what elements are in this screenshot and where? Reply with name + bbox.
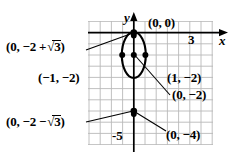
point-label-upper-vertex: (0, −2 +√3) (6, 40, 65, 53)
ellipse-graph-figure: y x 3 -5 (0, 0) (0, −2 +√3) (0, −2 −√3) … (0, 0, 236, 156)
upper-vertex-prefix: (0, −2 + (6, 39, 46, 54)
point-left-covertex (119, 52, 125, 58)
lower-vertex-prefix: (0, −2 − (6, 114, 46, 129)
lower-vertex-suffix: ) (61, 114, 65, 129)
point-label-right-covertex: (1, −2) (167, 71, 201, 84)
point-bottom (131, 111, 137, 117)
upper-vertex-suffix: ) (61, 39, 65, 54)
point-upper-vertex (131, 33, 137, 39)
point-right-covertex (142, 52, 148, 58)
point-label-bottom: (0, −4) (166, 128, 200, 141)
leader-lines (86, 34, 170, 131)
y-tick-label-minus5: -5 (112, 129, 122, 142)
point-center (131, 52, 137, 58)
radical-lower: √3 (46, 115, 60, 128)
y-axis-label: y (124, 11, 130, 24)
x-tick-label-3: 3 (188, 33, 194, 46)
radical-upper: √3 (46, 40, 60, 53)
point-label-origin: (0, 0) (148, 16, 175, 29)
point-label-lower-vertex: (0, −2 −√3) (6, 115, 65, 128)
point-label-center: (0, −2) (172, 88, 206, 101)
x-axis-label: x (219, 34, 225, 47)
x-axis (88, 29, 228, 36)
point-label-left-covertex: (−1, −2) (38, 71, 79, 84)
